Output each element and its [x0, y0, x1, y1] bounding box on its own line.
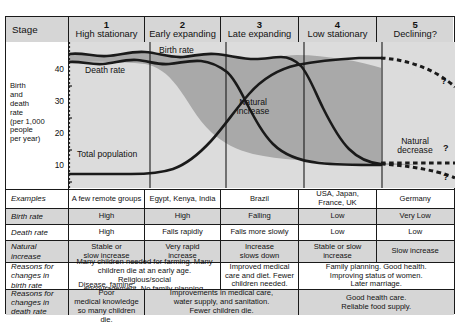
natural-increase-label-line-2: increase: [237, 106, 269, 116]
cell-birth-rate-stage-1: High: [69, 209, 145, 224]
cell-examples-stage-3: Brazil: [221, 190, 299, 208]
cell-examples-stage-5: Germany: [377, 190, 453, 208]
row-label-death-rate: Death rate: [6, 225, 69, 240]
birth-rate-label: Birth rate: [159, 46, 194, 55]
total-population-label: Total population: [77, 150, 137, 159]
chart-row: Birth and death rate (per 1,000 people p…: [6, 42, 454, 190]
table-row-reasons-death-rate: Reasons for changes in death rate Diseas…: [6, 290, 454, 315]
natural-decrease-label-line-2: decrease: [397, 145, 432, 155]
stage-label: Stage: [12, 25, 38, 35]
cell-reasons-birth-rate-stages-4-5: Family planning. Good health. Improving …: [299, 263, 453, 289]
table-row-death-rate: Death rate High Falls rapidly Falls more…: [6, 225, 454, 241]
plot-area: Birth rate Death rate Total population N…: [69, 42, 454, 189]
stage-header-row: Stage 1 High stationary 2 Early expandin…: [6, 17, 454, 42]
question-mark-population: ?: [441, 76, 447, 86]
y-tick-40: 40: [55, 64, 64, 74]
death-rate-label: Death rate: [85, 66, 125, 75]
row-label-examples: Examples: [6, 190, 69, 208]
header-stage-4[interactable]: 4 Low stationary: [299, 17, 377, 42]
header-stage-5[interactable]: 5 Declining?: [377, 17, 453, 42]
y-axis-label-box: Birth and death rate (per 1,000 people p…: [6, 42, 69, 189]
cell-reasons-death-rate-stages-4-5: Good health care. Reliable food supply.: [299, 290, 453, 315]
cell-reasons-death-rate-stages-2-3: Improvements in medical care, water supp…: [145, 290, 299, 315]
y-tick-30: 30: [55, 96, 64, 106]
cell-natural-increase-stage-3: Increase slows down: [221, 241, 299, 262]
cell-examples-stage-2: Egypt, Kenya, India: [145, 190, 221, 208]
header-stage-2[interactable]: 2 Early expanding: [145, 17, 221, 42]
cell-examples-stage-1: A few remote groups: [69, 190, 145, 208]
cell-death-rate-stage-1: High: [69, 225, 145, 240]
y-axis-title-line-7: per year): [10, 135, 45, 144]
cell-birth-rate-stage-3: Falling: [221, 209, 299, 224]
stage-1-label: High stationary: [75, 30, 137, 39]
header-stage-3[interactable]: 3 Late expanding: [221, 17, 299, 42]
header-stage-label-cell: Stage: [6, 17, 69, 42]
cell-death-rate-stage-4: Low: [299, 225, 377, 240]
stage-5-label: Declining?: [393, 30, 436, 39]
cell-death-rate-stage-5: Low: [377, 225, 453, 240]
table-row-birth-rate: Birth rate High High Falling Low Very Lo…: [6, 209, 454, 225]
cell-examples-stage-4: USA, Japan, France, UK: [299, 190, 377, 208]
cell-reasons-death-rate-stage-1: Disease, famine. Poor medical knowledge …: [69, 290, 145, 315]
cell-birth-rate-stage-2: High: [145, 209, 221, 224]
row-label-birth-rate: Birth rate: [6, 209, 69, 224]
question-mark-death-rate: ?: [443, 172, 449, 182]
y-axis-title: Birth and death rate (per 1,000 people p…: [10, 82, 45, 144]
table-row-examples: Examples A few remote groups Egypt, Keny…: [6, 190, 454, 209]
question-mark-birth-rate: ?: [443, 143, 449, 153]
cell-reasons-birth-rate-stage-3: Improved medical care and diet. Fewer ch…: [221, 263, 299, 289]
demographic-transition-diagram: Stage 1 High stationary 2 Early expandin…: [0, 0, 461, 325]
stage-3-label: Late expanding: [228, 30, 292, 39]
y-tick-10: 10: [55, 160, 64, 170]
row-label-reasons-death-rate: Reasons for changes in death rate: [6, 290, 69, 315]
cell-birth-rate-stage-4: Low: [299, 209, 377, 224]
cell-death-rate-stage-3: Falls more slowly: [221, 225, 299, 240]
natural-decrease-label: Natural decrease: [389, 137, 441, 156]
cell-death-rate-stage-2: Falls rapidly: [145, 225, 221, 240]
row-label-reasons-birth-rate: Reasons for changes in birth rate: [6, 263, 69, 289]
cell-natural-increase-stage-5: Slow increase: [377, 241, 453, 262]
stage-4-label: Low stationary: [308, 30, 368, 39]
y-tick-20: 20: [55, 128, 64, 138]
header-stage-1[interactable]: 1 High stationary: [69, 17, 145, 42]
row-label-natural-increase: Natural increase: [6, 241, 69, 262]
natural-increase-label: Natural increase: [227, 98, 279, 117]
cell-natural-increase-stage-4: Stable or slow increase: [299, 241, 377, 262]
diagram-frame: Stage 1 High stationary 2 Early expandin…: [5, 16, 455, 314]
stage-2-label: Early expanding: [149, 30, 216, 39]
cell-birth-rate-stage-5: Very Low: [377, 209, 453, 224]
